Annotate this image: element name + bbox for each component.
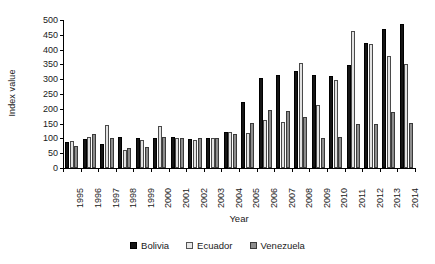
bar (276, 75, 280, 168)
x-axis-tick-mark (151, 169, 152, 172)
bar-group (221, 20, 239, 168)
x-axis-tick-mark (221, 169, 222, 172)
x-axis-tick-mark (63, 169, 64, 172)
x-axis-tick-label: 2005 (242, 174, 253, 208)
bar-chart: Index value 0501001502002503003504004505… (0, 0, 435, 264)
bar (321, 138, 325, 168)
x-axis-title: Year (63, 213, 415, 224)
bar (180, 138, 184, 168)
x-axis-tick-mark (116, 169, 117, 172)
bar (409, 123, 413, 168)
legend-swatch-icon (186, 242, 193, 249)
bar (334, 80, 338, 169)
bar-group (274, 20, 292, 168)
x-axis-tick-mark (81, 169, 82, 172)
bar (100, 144, 104, 168)
bar (351, 31, 355, 168)
x-axis-tick-mark (274, 169, 275, 172)
y-axis-tick-label: 350 (20, 59, 63, 69)
x-axis-tick-label: 1999 (137, 174, 148, 208)
bar-group (98, 20, 116, 168)
bar (193, 140, 197, 168)
legend-item[interactable]: Bolivia (130, 240, 169, 251)
bar (224, 132, 228, 168)
bar-group (169, 20, 187, 168)
bar (127, 148, 131, 168)
bar (206, 138, 210, 168)
x-axis-tick-mark (169, 169, 170, 172)
x-axis-tick-label: 2003 (207, 174, 218, 208)
bar-group (397, 20, 415, 168)
bar (387, 56, 391, 168)
bar (153, 138, 157, 168)
legend-item-label: Bolivia (141, 240, 169, 251)
bar (312, 75, 316, 168)
x-axis-tick-mark (309, 169, 310, 172)
bar-group (292, 20, 310, 168)
x-axis-tick-label: 2007 (278, 174, 289, 208)
x-axis-tick-label: 2008 (295, 174, 306, 208)
y-axis-tick-label: 0 (20, 163, 63, 173)
bar (364, 43, 368, 169)
x-axis-tick-mark (327, 169, 328, 172)
bar-group (151, 20, 169, 168)
legend-swatch-icon (250, 242, 257, 249)
x-axis-tick-label: 2010 (330, 174, 341, 208)
x-axis-tick-label: 2002 (190, 174, 201, 208)
x-axis-tick-label: 2011 (348, 174, 359, 208)
bar (175, 138, 179, 168)
bar (70, 141, 74, 168)
legend-item[interactable]: Ecuador (186, 240, 232, 251)
bar-group (239, 20, 257, 168)
x-axis-tick-mark (239, 169, 240, 172)
bar (105, 125, 109, 169)
x-axis-tick-label: 1997 (102, 174, 113, 208)
bar (404, 64, 408, 168)
x-axis-tick-mark (186, 169, 187, 172)
bar (374, 124, 378, 168)
x-axis-tick-label: 2009 (313, 174, 324, 208)
bar (228, 132, 232, 168)
bar-group (204, 20, 222, 168)
bar (268, 110, 272, 168)
bar (369, 44, 373, 168)
legend-item-label: Venezuela (261, 240, 305, 251)
x-axis-tick-mark (204, 169, 205, 172)
x-axis-tick-label: 1998 (119, 174, 130, 208)
bar (329, 76, 333, 168)
legend-swatch-icon (130, 242, 137, 249)
bar (83, 139, 87, 168)
x-axis-tick-mark (362, 169, 363, 172)
legend-item-label: Ecuador (197, 240, 232, 251)
bar-group (257, 20, 275, 168)
bar (87, 137, 91, 168)
y-axis-tick-label: 200 (20, 104, 63, 114)
x-axis-tick-mark (380, 169, 381, 172)
x-axis-tick-mark (133, 169, 134, 172)
bar-group (63, 20, 81, 168)
bar (74, 146, 78, 168)
legend-item[interactable]: Venezuela (250, 240, 305, 251)
bar (246, 133, 250, 168)
bar-group (309, 20, 327, 168)
plot-area (63, 20, 415, 168)
bar (316, 105, 320, 168)
bar (241, 102, 245, 168)
bar (391, 112, 395, 168)
bar (382, 29, 386, 168)
x-axis-tick-mark (98, 169, 99, 172)
bar (188, 139, 192, 168)
x-axis-tick-label: 2014 (401, 174, 412, 208)
x-axis-tick-mark (397, 169, 398, 172)
bar (123, 150, 127, 168)
bar (338, 137, 342, 168)
bar (110, 138, 114, 168)
bar (215, 138, 219, 168)
bar (263, 120, 267, 168)
bar (198, 138, 202, 168)
x-axis-tick-label-text: 2014 (410, 188, 421, 208)
bar (145, 147, 149, 168)
bar-group (116, 20, 134, 168)
y-axis-tick-label: 500 (20, 15, 63, 25)
bar-group (81, 20, 99, 168)
